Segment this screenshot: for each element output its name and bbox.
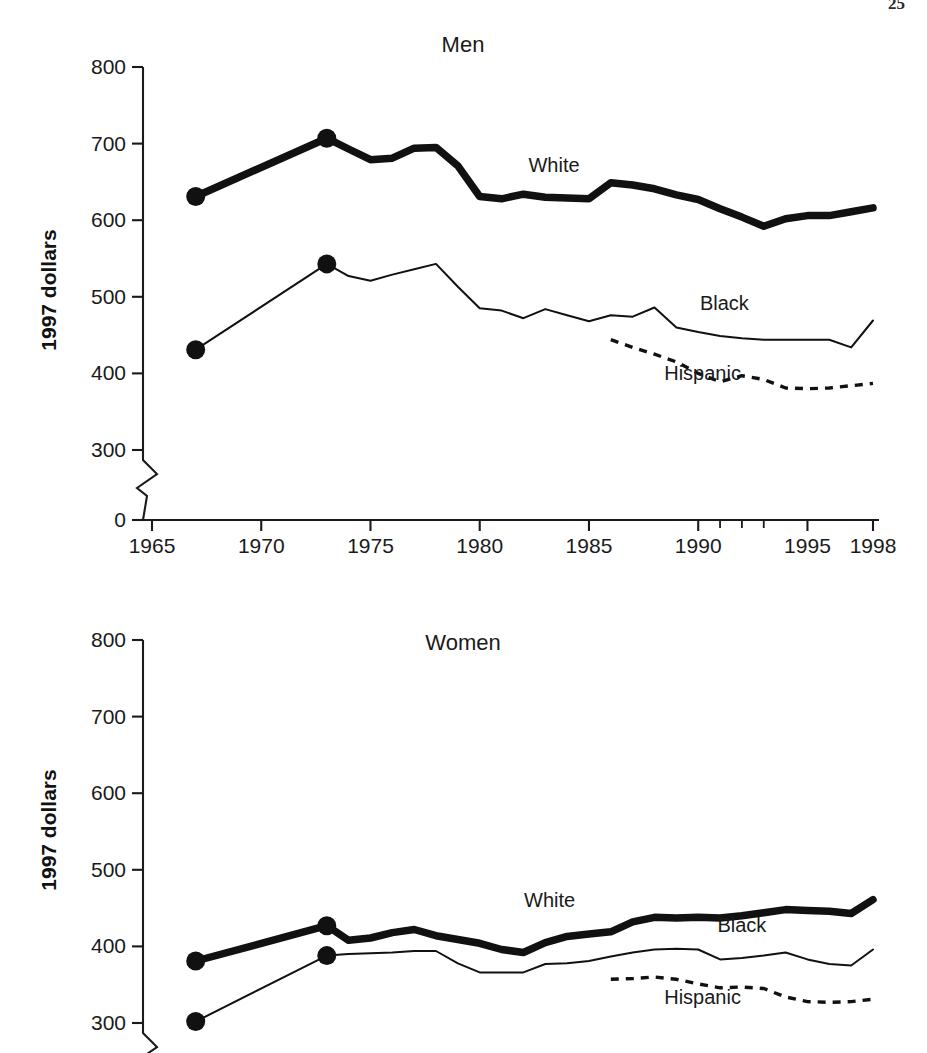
series-marker-white [317,129,336,148]
y-axis-tick-label: 600 [91,208,126,231]
series-marker-white [186,952,205,971]
y-axis-title-women: 1997 dollars [37,769,60,890]
y-axis-line [137,67,157,520]
y-axis-tick-label: 500 [91,285,126,308]
x-axis-tick-label: 1990 [675,534,722,557]
series-label-white: White [528,154,579,176]
chart-panel-men: 8007006005004003000196519701975198019851… [0,0,927,590]
series-label-hispanic: Hispanic [664,362,741,384]
x-axis-tick-label: 1980 [456,534,503,557]
x-axis-tick-label: 1975 [347,534,394,557]
y-axis-tick-label: 400 [91,934,126,957]
chart-panel-women: 800700600500400300 WhiteBlackHispanic Wo… [0,590,927,1053]
chart-svg-men: 8007006005004003000196519701975198019851… [0,0,927,590]
y-axis-tick-label: 500 [91,858,126,881]
y-axis-tick-label: 400 [91,361,126,384]
series-line-black [196,264,873,350]
series-marker-white [186,187,205,206]
x-axis-tick-label: 1965 [129,534,176,557]
series-group-women [186,900,873,1031]
y-axis-tick-label: 800 [91,55,126,78]
axes-group-men: 8007006005004003000196519701975198019851… [91,55,896,557]
series-marker-white [317,916,336,935]
panel-title-women: Women [425,630,500,655]
panel-title-men: Men [442,32,485,57]
series-marker-black [186,340,205,359]
axes-group-women: 800700600500400300 [91,628,157,1053]
series-label-black: Black [717,914,767,936]
x-axis-tick-label: 1985 [566,534,613,557]
series-marker-black [317,946,336,965]
y-axis-tick-label: 600 [91,781,126,804]
y-axis-tick-label: 300 [91,1011,126,1034]
series-marker-black [186,1012,205,1031]
series-label-hispanic: Hispanic [664,986,741,1008]
y-axis-tick-label: 300 [91,438,126,461]
series-line-black [196,949,873,1022]
y-axis-tick-label: 700 [91,132,126,155]
labels-group-women: WhiteBlackHispanic [524,889,767,1008]
series-label-black: Black [700,292,750,314]
y-axis-tick-label: 700 [91,705,126,728]
y-axis-title-men: 1997 dollars [37,229,60,350]
series-label-white: White [524,889,575,911]
x-axis-tick-label: 1970 [238,534,285,557]
x-axis-tick-label: 1998 [850,534,897,557]
y-axis-tick-label: 800 [91,628,126,651]
series-marker-black [317,254,336,273]
series-line-hispanic [611,977,873,1002]
y-axis-line [137,640,157,1053]
y-axis-tick-label: 0 [114,508,126,531]
chart-svg-women: 800700600500400300 WhiteBlackHispanic Wo… [0,590,927,1053]
figure-page: 25 8007006005004003000196519701975198019… [0,0,927,1053]
series-line-hispanic [611,340,873,389]
series-line-white [196,138,873,226]
x-axis-tick-label: 1995 [784,534,831,557]
